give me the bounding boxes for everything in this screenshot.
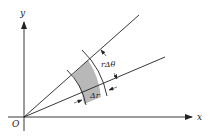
dr-arrow-left [74,100,82,103]
y-axis-label: y [19,8,26,18]
arc-length-label: rΔθ [101,60,116,69]
upper-ray [24,15,139,117]
polar-area-element-diagram: O x y rΔθ Δr [0,0,210,139]
dr-arrow-right [109,87,117,90]
r-dtheta-arrow-top [101,50,106,56]
x-axis-label: x [197,112,202,122]
origin-label: O [12,119,20,129]
radial-increment-label: Δr [89,91,101,100]
lower-ray [24,57,165,117]
